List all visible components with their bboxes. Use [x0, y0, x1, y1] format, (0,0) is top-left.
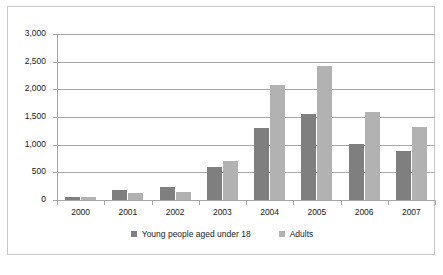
x-axis-tick-label: 2003 — [199, 207, 246, 218]
x-axis-tick-mark — [246, 201, 247, 205]
x-axis-tick-label: 2002 — [152, 207, 199, 218]
bar — [301, 114, 316, 200]
legend-label: Young people aged under 18 — [142, 229, 251, 239]
bar — [254, 128, 269, 200]
x-axis-tick-label: 2001 — [104, 207, 151, 218]
x-axis-tick-mark — [152, 201, 153, 205]
x-axis-tick-mark — [57, 201, 58, 205]
y-axis-tick-label: 2,500 — [4, 57, 46, 66]
legend-swatch-icon — [279, 231, 285, 237]
x-axis-tick-mark — [388, 201, 389, 205]
plot-area — [57, 34, 435, 200]
bar — [176, 192, 191, 200]
chart-frame: 05001,0001,5002,0002,5003,000 2000200120… — [7, 6, 435, 255]
x-axis-tick-label: 2004 — [246, 207, 293, 218]
bar — [349, 144, 364, 200]
bar — [223, 161, 238, 200]
y-axis-tick-label: 1,000 — [4, 140, 46, 149]
bar — [317, 66, 332, 200]
y-axis-tick-label: 1,500 — [4, 112, 46, 121]
bar — [270, 85, 285, 200]
legend-entry: Young people aged under 18 — [131, 229, 251, 239]
gridline — [57, 34, 435, 35]
y-axis-tick-label: 2,000 — [4, 84, 46, 93]
bar — [128, 193, 143, 200]
x-axis-tick-mark — [104, 201, 105, 205]
x-axis-tick-mark — [199, 201, 200, 205]
gridline — [57, 89, 435, 90]
screenshot-root: 05001,0001,5002,0002,5003,000 2000200120… — [0, 0, 443, 275]
x-axis-tick-mark — [293, 201, 294, 205]
bar — [81, 197, 96, 200]
bar — [112, 190, 127, 200]
legend-swatch-icon — [131, 231, 137, 237]
bar — [207, 167, 222, 200]
x-axis-tick-mark — [341, 201, 342, 205]
bar — [396, 151, 411, 200]
legend-label: Adults — [290, 229, 314, 239]
bar — [412, 127, 427, 200]
bar — [365, 112, 380, 200]
x-axis-tick-label: 2000 — [57, 207, 104, 218]
y-axis-tick-label: 0 — [4, 195, 46, 204]
y-axis-tick-label: 500 — [4, 167, 46, 176]
y-axis-tick-label: 3,000 — [4, 29, 46, 38]
x-axis-tick-label: 2007 — [388, 207, 435, 218]
x-axis-tick-label: 2005 — [293, 207, 340, 218]
bar — [65, 197, 80, 200]
x-axis-tick-label: 2006 — [341, 207, 388, 218]
x-axis-tick-mark — [435, 201, 436, 205]
legend-entry: Adults — [279, 229, 314, 239]
chart-legend: Young people aged under 18Adults — [8, 229, 436, 239]
gridline — [57, 62, 435, 63]
bar — [160, 187, 175, 200]
